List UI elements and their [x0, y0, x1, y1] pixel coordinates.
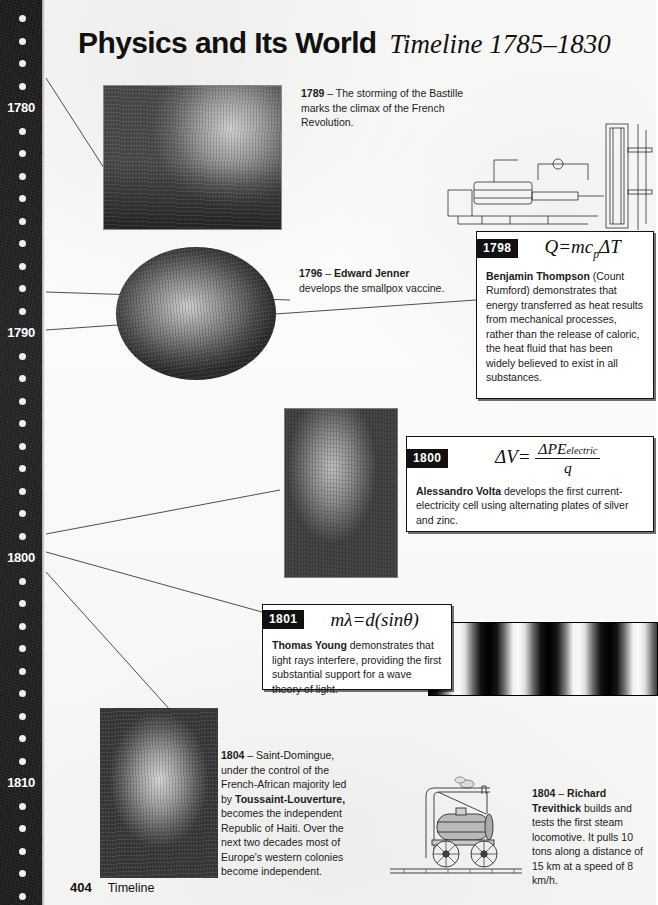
- entry-1800-header: 1800 ΔV= ΔPEelectric q: [407, 437, 653, 479]
- timeline-dot-1811: [19, 803, 26, 810]
- formula-1800-num-main: ΔPE: [538, 440, 566, 457]
- timeline-dot-1807: [19, 713, 26, 720]
- timeline-decade-label-1780: 1780: [0, 100, 42, 115]
- timeline-dot-1781: [19, 128, 26, 135]
- entry-1800-lead: Alessandro Volta: [416, 485, 504, 497]
- timeline-dot-1782: [19, 150, 26, 157]
- caption-1804-trevithick-text: builds and tests the first steam locomot…: [532, 802, 643, 887]
- timeline-dot-1789: [19, 308, 26, 315]
- timeline-dot-1815: [19, 893, 26, 900]
- formula-1801-m: m: [330, 609, 344, 630]
- formula-1801-theta: θ: [403, 609, 412, 630]
- timeline-decade-label-1800: 1800: [0, 550, 42, 565]
- caption-1804-haiti-dash: –: [244, 749, 256, 761]
- entry-1800-body: Alessandro Volta develops the first curr…: [407, 479, 653, 536]
- timeline-dot-1805: [19, 668, 26, 675]
- timeline-dot-1803: [19, 623, 26, 630]
- entry-1801-year-badge: 1801: [262, 610, 304, 629]
- entry-1798-year-badge: 1798: [476, 239, 518, 258]
- formula-1801-d: d: [365, 609, 375, 630]
- caption-1789-year: 1789: [301, 87, 324, 99]
- caption-1796-dash: –: [322, 267, 334, 279]
- page-title: Physics and Its World Timeline 1785–1830: [78, 26, 611, 60]
- timeline-dot-1793: [19, 398, 26, 405]
- caption-1804-haiti-text2: becomes the independent Republic of Hait…: [221, 807, 344, 877]
- formula-1800-equals: =: [518, 446, 531, 467]
- formula-1800-numerator: ΔPEelectric: [535, 441, 600, 459]
- timeline-dot-1779: [19, 83, 26, 90]
- timeline-dot-1801: [19, 578, 26, 585]
- entry-1800-year-badge: 1800: [406, 449, 448, 468]
- entry-1800-formula: ΔV= ΔPEelectric q: [448, 441, 647, 477]
- timeline-decade-label-1810: 1810: [0, 775, 42, 790]
- entry-1798-text: (Count Rumford) demonstrates that energy…: [486, 270, 643, 384]
- formula-1801-equals: =: [352, 609, 365, 630]
- caption-1804-haiti-lead: Toussaint-Louverture,: [235, 793, 345, 805]
- entry-1798-lead: Benjamin Thompson: [486, 270, 593, 282]
- caption-1804-trevithick: 1804 – Richard Trevithick builds and tes…: [532, 786, 648, 888]
- page-title-main: Physics and Its World: [78, 26, 377, 60]
- entry-1798-formula: Q=mcpΔT: [518, 236, 647, 262]
- timeline-dot-1791: [19, 353, 26, 360]
- formula-1800-denominator: q: [535, 459, 600, 476]
- formula-1800-lhs: ΔV: [495, 446, 518, 467]
- caption-1789-dash: –: [324, 87, 335, 99]
- formula-1798-q: Q: [544, 236, 558, 257]
- timeline-decade-label-1790: 1790: [0, 325, 42, 340]
- timeline-dot-1813: [19, 848, 26, 855]
- caption-1796-text: develops the smallpox vaccine.: [299, 282, 444, 294]
- formula-1800-num-sub: electric: [567, 445, 598, 456]
- caption-1804-haiti: 1804 – Saint-Domingue, under the control…: [221, 748, 347, 879]
- entry-1798-header: 1798 Q=mcpΔT: [477, 232, 653, 264]
- caption-1804-haiti-year: 1804: [221, 749, 244, 761]
- caption-1796-lead: Edward Jenner: [334, 267, 409, 279]
- entry-1798-body: Benjamin Thompson (Count Rumford) demons…: [477, 264, 653, 393]
- timeline-dot-1799: [19, 533, 26, 540]
- timeline-dot-1777: [19, 38, 26, 45]
- caption-1804-trevithick-dash: –: [555, 787, 567, 799]
- formula-1800-fraction: ΔPEelectric q: [535, 441, 600, 477]
- entry-1801-lead: Thomas Young: [272, 639, 350, 651]
- image-interference-fringes: [428, 622, 658, 696]
- formula-1798-equals: =: [558, 236, 571, 257]
- page-title-subtitle: Timeline 1785–1830: [390, 29, 611, 60]
- footer-section-label: Timeline: [108, 881, 155, 895]
- caption-1796-jenner: 1796 – Edward Jenner develops the smallp…: [299, 266, 449, 295]
- timeline-dot-1785: [19, 218, 26, 225]
- timeline-dot-1797: [19, 488, 26, 495]
- image-alessandro-volta: [284, 408, 398, 578]
- page-footer: 404 Timeline: [70, 880, 154, 895]
- formula-1801-sin: sin: [381, 609, 403, 630]
- entry-1801-formula: mλ=d(sinθ): [304, 609, 445, 631]
- image-cannon-boring-machine: [438, 120, 656, 235]
- timeline-dot-1776: [19, 15, 26, 22]
- caption-1804-trevithick-year: 1804: [532, 787, 555, 799]
- timeline-dot-1783: [19, 173, 26, 180]
- timeline-dot-1778: [19, 60, 26, 67]
- timeline-rail: [0, 0, 42, 905]
- image-toussaint-louverture: [100, 708, 218, 878]
- entry-1801-body: Thomas Young demonstrates that light ray…: [263, 633, 451, 704]
- entry-1801-young: 1801 mλ=d(sinθ) Thomas Young demonstrate…: [262, 604, 452, 690]
- timeline-dot-1787: [19, 263, 26, 270]
- caption-1796-year: 1796: [299, 267, 322, 279]
- timeline-rail-edge: [42, 0, 45, 905]
- timeline-dot-1795: [19, 443, 26, 450]
- image-storming-of-the-bastille: [103, 85, 282, 230]
- entry-1798-thompson: 1798 Q=mcpΔT Benjamin Thompson (Count Ru…: [476, 231, 654, 399]
- entry-1801-header: 1801 mλ=d(sinθ): [263, 605, 451, 633]
- formula-1798-deltat: ΔT: [599, 236, 621, 257]
- formula-1798-mc: mc: [571, 236, 593, 257]
- footer-page-number: 404: [70, 880, 92, 895]
- image-trevithick-steam-locomotive: [382, 770, 524, 882]
- image-edward-jenner-vaccination: [116, 247, 276, 380]
- formula-1801-close: ): [413, 609, 419, 630]
- entry-1800-volta: 1800 ΔV= ΔPEelectric q Alessandro Volta …: [406, 436, 654, 532]
- timeline-dot-1809: [19, 758, 26, 765]
